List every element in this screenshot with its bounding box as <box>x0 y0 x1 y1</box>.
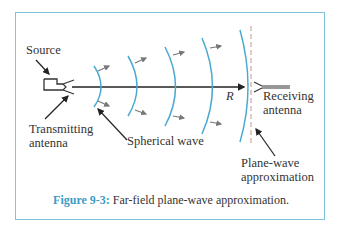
source-label: Source <box>26 43 61 57</box>
transmitting-antenna-label-line2: antenna <box>29 136 68 150</box>
receiving-antenna-label-line2: antenna <box>263 103 302 117</box>
spherical-wave-label: Spherical wave <box>127 134 204 148</box>
figure-caption-text: Far-field plane-wave approximation. <box>113 193 289 207</box>
receiving-antenna-label-line1: Receiving <box>263 89 314 103</box>
transmitting-antenna-icon <box>44 79 74 94</box>
plane-wave-label-line1: Plane-wave <box>241 156 299 170</box>
spherical-wavefronts <box>94 30 248 142</box>
figure-caption: Figure 9-3: Far-field plane-wave approxi… <box>0 193 342 208</box>
transmitting-antenna-label-line1: Transmitting <box>29 122 93 136</box>
distance-label: R <box>226 89 234 104</box>
propagation-arrows <box>98 46 221 124</box>
plane-wave-label-line2: approximation <box>241 170 314 184</box>
figure-number: Figure 9-3: <box>53 193 110 207</box>
